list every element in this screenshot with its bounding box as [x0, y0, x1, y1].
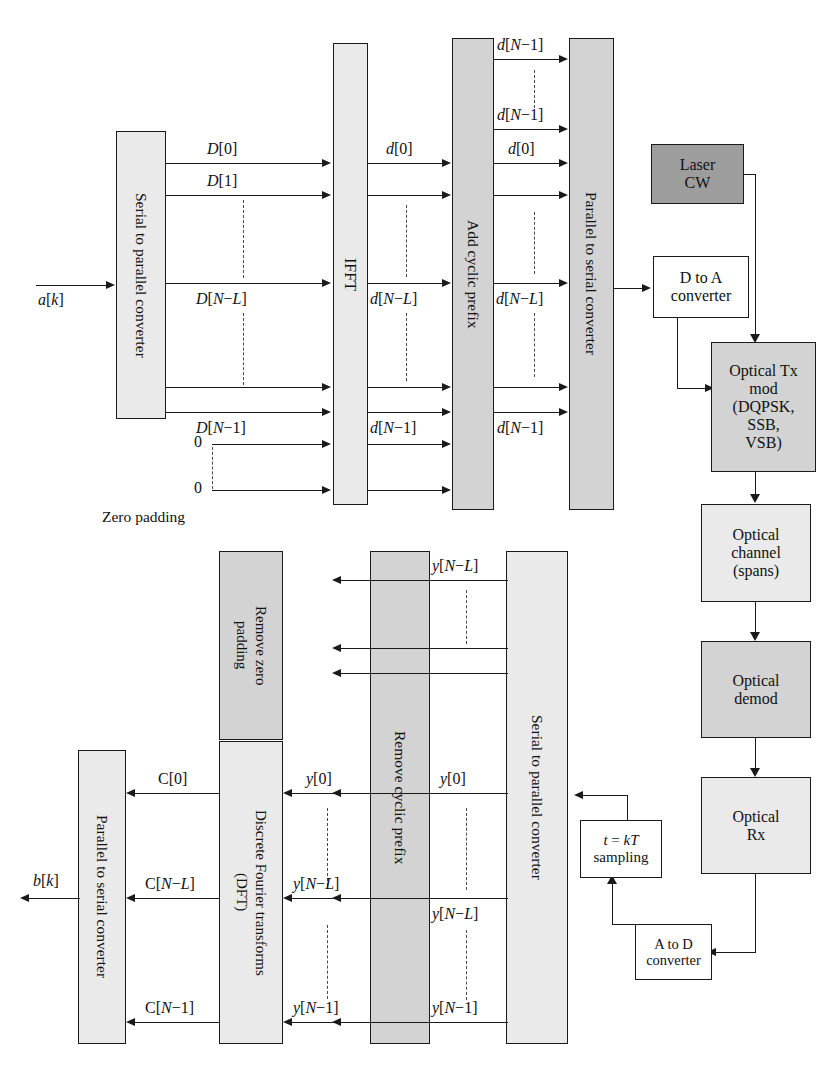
arrow-rx-sp-2 [332, 644, 341, 652]
arrow-dft-y0 [283, 789, 292, 797]
block-dft-line2: (DFT) [234, 873, 250, 911]
line-CN1 [134, 1022, 220, 1023]
line-dft-y0 [291, 793, 371, 794]
line-zero-bottom [212, 490, 324, 491]
line-dN1 [368, 412, 444, 413]
caption-zero-padding: Zero padding [102, 508, 185, 526]
arrow-ifft-z2 [442, 486, 451, 494]
block-dft-text: Discrete Fourier transforms (DFT) [232, 810, 270, 976]
label-D0: D[0] [207, 140, 237, 158]
arrow-cp-3 [559, 159, 568, 167]
block-dft: Discrete Fourier transforms (DFT) [219, 741, 283, 1044]
block-ifft-label: IFFT [342, 258, 360, 291]
label-CN1: C[N−1] [145, 999, 194, 1017]
block-optical-rx: Optical Rx [701, 777, 811, 874]
arrow-cp-7 [559, 408, 568, 416]
block-adc-line1: A to D [654, 936, 693, 952]
block-remove-cyclic-prefix: Remove cyclic prefix [370, 551, 430, 1044]
arrow-zero-bottom [322, 486, 331, 494]
line-zero-top [212, 444, 324, 445]
ellipsis-rx-sp-3 [466, 930, 467, 1000]
block-remove-zero-padding: Remove zero padding [219, 551, 283, 740]
block-rx-serial-to-parallel: Serial to parallel converter [506, 551, 568, 1044]
line-D-pre-last [166, 387, 324, 388]
arrow-rx-sp-3 [332, 669, 341, 677]
line-d0 [368, 163, 444, 164]
line-adc-up [612, 880, 613, 925]
arrow-dNL [442, 279, 451, 287]
block-optical-rx-line1: Optical [732, 808, 779, 826]
arrow-CNL [126, 894, 135, 902]
label-cp-d0: d[0] [508, 140, 535, 158]
block-optical-tx-mod-line2: mod [749, 380, 777, 398]
block-ifft: IFFT [333, 43, 368, 505]
block-dft-line1: Discrete Fourier transforms [253, 810, 269, 976]
block-add-cyclic-prefix: Add cyclic prefix [452, 38, 494, 510]
label-rx-yNL-sp: y[N−L] [432, 905, 478, 923]
block-optical-tx-mod: Optical Tx mod (DQPSK, SSB, VSB) [711, 342, 816, 472]
line-cp-4 [494, 195, 566, 196]
label-dft-yN1: y[N−1] [293, 999, 338, 1017]
line-D1 [166, 195, 324, 196]
line-C0 [134, 793, 220, 794]
label-d0: d[0] [386, 140, 413, 158]
label-dN1: d[N−1] [370, 419, 416, 437]
label-DN1: D[N−1] [196, 419, 246, 437]
arrow-dft-yNL [283, 894, 292, 902]
arrow-dft-yN1 [283, 1018, 292, 1026]
arrow-cp-6 [559, 383, 568, 391]
arrow-D1 [322, 191, 331, 199]
line-cp-2 [494, 129, 566, 130]
block-adc-line2: converter [646, 952, 701, 968]
arrow-zero-top [322, 440, 331, 448]
ellipsis-cp-3 [534, 313, 535, 377]
line-sampling-up [627, 795, 628, 821]
line-CNL [134, 898, 220, 899]
block-laser-cw: Laser CW [651, 144, 744, 204]
arrow-ifft-z1 [442, 440, 451, 448]
line-d1 [368, 195, 444, 196]
line-rx-sp-2 [340, 648, 508, 649]
ellipsis-zero-padding [212, 447, 213, 489]
label-cp-dN1-c: d[N−1] [497, 419, 543, 437]
block-add-cyclic-prefix-label: Add cyclic prefix [464, 220, 481, 328]
line-laser-down [755, 174, 756, 338]
block-dac-line1: D to A [680, 269, 723, 287]
ellipsis-ifft-lower [406, 313, 407, 381]
arrow-DNL [322, 279, 331, 287]
block-dac-line2: converter [671, 287, 731, 305]
output-line-bk [28, 898, 80, 899]
line-adc-left [612, 924, 637, 925]
block-optical-channel-line2: channel [731, 544, 781, 562]
block-sampling-line1: t = kT [603, 832, 638, 849]
block-optical-channel-line1: Optical [732, 526, 779, 544]
arrow-channel-to-demod [750, 632, 760, 641]
ellipsis-sp-lower [243, 313, 244, 385]
diagram-canvas: Serial to parallel converter a[k] IFFT A… [0, 0, 839, 1080]
line-dft-yN1 [291, 1022, 371, 1023]
input-arrow-ak [106, 281, 115, 289]
block-tx-parallel-to-serial: Parallel to serial converter [569, 38, 614, 510]
block-optical-demod-line2: demod [734, 690, 778, 708]
arrow-demod-to-rx [750, 768, 760, 777]
line-cp-1 [494, 59, 566, 60]
line-rx-down [755, 874, 756, 952]
block-laser-cw-line2: CW [685, 174, 711, 192]
ellipsis-rx-sp-1 [466, 590, 467, 644]
arrow-C0 [126, 789, 135, 797]
arrow-dN1 [442, 408, 451, 416]
line-dNL [368, 283, 444, 284]
arrow-d1 [442, 191, 451, 199]
ellipsis-ifft-upper [406, 205, 407, 277]
block-optical-tx-mod-line1: Optical Tx [729, 362, 798, 380]
line-cp-6 [494, 387, 566, 388]
label-dft-y0: y[0] [306, 770, 332, 788]
label-zero-bottom: 0 [194, 479, 202, 497]
label-DNL: D[N−L] [196, 290, 247, 308]
ellipsis-dft-2 [327, 925, 328, 999]
block-sampling: t = kT sampling [580, 820, 662, 878]
block-optical-tx-mod-line5: VSB) [745, 434, 781, 452]
block-dac: D to A converter [653, 256, 749, 318]
label-rx-y0-sp: y[0] [440, 770, 466, 788]
block-tx-serial-to-parallel: Serial to parallel converter [116, 131, 166, 419]
